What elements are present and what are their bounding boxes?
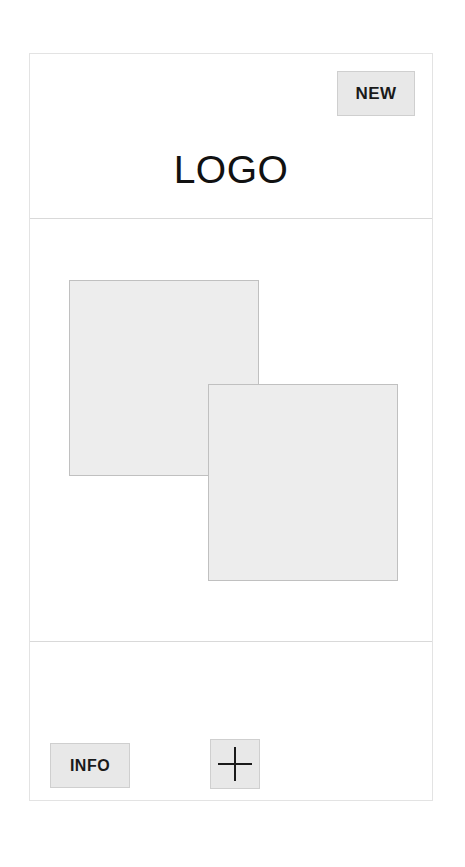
plus-icon bbox=[218, 747, 252, 781]
footer-section: INFO bbox=[30, 642, 432, 800]
content-section bbox=[30, 219, 432, 642]
new-button[interactable]: NEW bbox=[337, 71, 415, 116]
new-button-label: NEW bbox=[355, 84, 396, 104]
wireframe-root: NEW LOGO INFO bbox=[0, 0, 465, 867]
device-frame: NEW LOGO INFO bbox=[29, 53, 433, 801]
info-button-label: INFO bbox=[70, 757, 110, 775]
add-button[interactable] bbox=[210, 739, 260, 789]
info-button[interactable]: INFO bbox=[50, 743, 130, 788]
page-title: LOGO bbox=[30, 150, 432, 189]
header-section: NEW LOGO bbox=[30, 54, 432, 219]
placeholder-box-front[interactable] bbox=[208, 384, 398, 581]
